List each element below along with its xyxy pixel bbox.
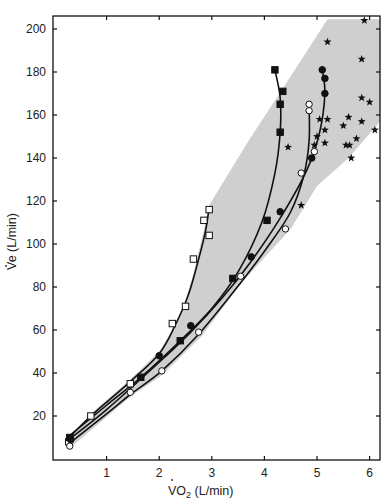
open-squares-marker	[206, 206, 212, 212]
open-squares-marker	[169, 320, 175, 326]
filled-circles-marker	[308, 155, 315, 162]
y-tick-label: 80	[33, 280, 47, 294]
open-circles-marker	[311, 148, 317, 154]
filled-squares-marker	[230, 275, 236, 281]
y-axis-title: Ve (L/min)	[5, 213, 19, 270]
open-circles-marker	[159, 368, 165, 374]
open-squares-marker	[182, 303, 188, 309]
open-circles-marker	[282, 226, 288, 232]
filled-circles-marker	[68, 436, 75, 443]
filled-circles-marker	[156, 353, 163, 360]
open-circles-marker	[195, 329, 201, 335]
scatter-plot: 12345620406080100120140160180200 VO2 (L/…	[0, 0, 392, 502]
y-tick-label: 100	[26, 237, 46, 251]
filled-squares-marker	[177, 338, 183, 344]
filled-squares-marker	[264, 217, 270, 223]
open-squares-marker	[88, 413, 94, 419]
x-tick-label: 5	[314, 466, 321, 480]
x-tick-label: 4	[261, 466, 268, 480]
open-circles-marker	[306, 108, 312, 114]
x-title-dot	[171, 479, 173, 481]
x-axis-title: VO2 (L/min)	[168, 484, 233, 500]
x-tick-label: 3	[208, 466, 215, 480]
y-tick-label: 180	[26, 65, 46, 79]
y-tick-label: 20	[33, 409, 47, 423]
open-circles-marker	[306, 101, 312, 107]
y-tick-label: 120	[26, 194, 46, 208]
filled-squares-marker	[277, 129, 283, 135]
chart-root: 12345620406080100120140160180200 VO2 (L/…	[0, 0, 392, 502]
y-tick-label: 160	[26, 108, 46, 122]
filled-circles-marker	[277, 208, 284, 215]
filled-circles-marker	[187, 322, 194, 329]
filled-squares-marker	[280, 88, 286, 94]
open-circles-marker	[67, 443, 73, 449]
filled-squares-marker	[272, 67, 278, 73]
open-squares-marker	[190, 256, 196, 262]
filled-circles-marker	[322, 90, 329, 97]
shaded-envelope	[67, 19, 380, 448]
filled-circles-marker	[322, 75, 329, 82]
filled-squares-curve	[67, 70, 281, 438]
open-circles-marker	[298, 170, 304, 176]
y-tick-label: 60	[33, 323, 47, 337]
filled-circles-marker	[319, 67, 326, 74]
open-squares-marker	[206, 232, 212, 238]
filled-circles-marker	[248, 254, 255, 261]
y-tick-label: 140	[26, 151, 46, 165]
y-tick-label: 200	[26, 22, 46, 36]
x-tick-label: 2	[156, 466, 163, 480]
y-tick-label: 40	[33, 366, 47, 380]
envelope-polygon	[67, 19, 380, 448]
open-circles-marker	[238, 273, 244, 279]
open-circles-marker	[127, 389, 133, 395]
open-squares-marker	[127, 381, 133, 387]
x-tick-label: 6	[366, 466, 373, 480]
open-squares-marker	[201, 217, 207, 223]
x-tick-label: 1	[103, 466, 110, 480]
filled-squares-marker	[138, 374, 144, 380]
filled-squares-marker	[277, 101, 283, 107]
